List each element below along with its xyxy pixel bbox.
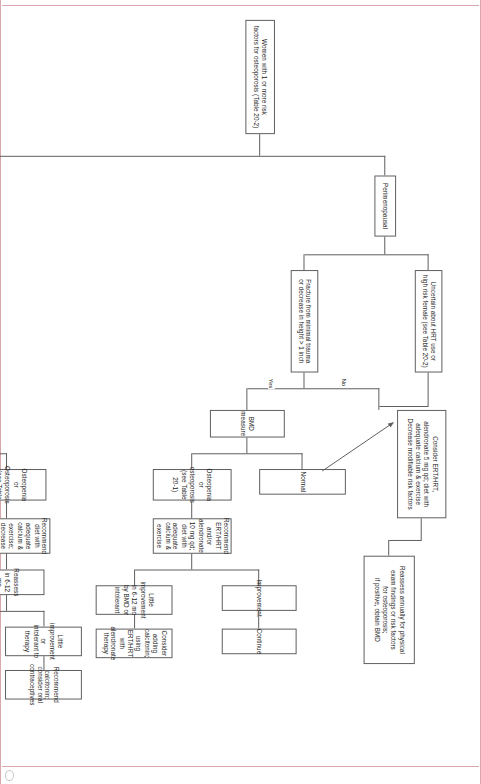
edge-peri-no-to-consider: [378, 388, 379, 410]
edge-pre-outcome-split: [0, 611, 44, 612]
flowchart-diagram: Women with 1 or more risk factors for os…: [5, 12, 468, 761]
node-peri-osteopenia: Osteopenia or osteoporosis (see Table 20…: [153, 469, 232, 501]
node-peri-uncertain-hrt: Uncertain about HRT use or high risk fem…: [415, 270, 443, 372]
edge-to-uncertain-hrt: [428, 254, 429, 270]
edge-pre-reassess-out: [6, 595, 7, 611]
page-corner-mark: [5, 770, 14, 781]
node-peri-recommend-ert: Recommend ERT/HRT and/or alendronate 10 …: [153, 518, 232, 553]
page-rule-bottom: [2, 766, 479, 767]
edge-peri-bmd-out: [246, 438, 247, 454]
node-pre-little-improvement: Little improvement or intolerant to ther…: [5, 627, 82, 657]
edge-peri-recommend-out: [191, 554, 192, 570]
page-rule-top: [2, 5, 479, 6]
node-peri-reassess-annually: Reassess annually for physical exam find…: [364, 556, 415, 664]
edge-trunk-vertical: [0, 156, 385, 157]
node-peri-consider-ert: Consider ERT/HRT, alendronate 5 mg qd; d…: [397, 410, 446, 518]
edge-consider-to-reassess: [421, 518, 422, 540]
edge-root-trunk: [259, 134, 260, 156]
edge-peri-bmd-split: [192, 453, 302, 454]
edge-pre-osteopenia-to-recommend: [6, 501, 7, 519]
edge-peri-osteopenia-to-recommend: [191, 501, 192, 519]
edge-peri-improvement-to-continue: [258, 611, 259, 629]
node-peri-improvement: Improvement: [222, 585, 297, 611]
edge-reassess-entry-h: [388, 540, 389, 556]
node-peri-consider-calcitonin: Consider adding calcitonin; using ERT/HR…: [96, 629, 173, 659]
edge-label-peri-yes: Yes: [268, 377, 275, 389]
node-perimenopausal: Perimenopausal: [374, 176, 396, 237]
edge-perimenopausal-out: [384, 237, 385, 255]
node-root: Women with 1 or more risk factors for os…: [245, 20, 275, 134]
edge-trunk-perimenopausal: [384, 156, 385, 176]
edge-to-peri-fracture: [304, 254, 305, 270]
node-pre-osteopenia: Osteopenia or Osteoporosis (see Table 20…: [0, 469, 46, 501]
edge-to-peri-normal: [302, 453, 303, 469]
node-peri-normal: Normal: [259, 469, 346, 495]
edge-peri-yes-to-bmd: [246, 388, 247, 410]
node-pre-recommend-diet-alen: Recommend diet with adequate calcium & e…: [0, 518, 50, 553]
edge-uncertain-to-consider: [428, 373, 429, 406]
node-peri-fracture: Fracture from minimal trauma or decrease…: [291, 270, 319, 372]
node-peri-bmd-measure: BMD measure: [210, 410, 285, 438]
edge-peri-fracture-out: [304, 373, 305, 389]
node-peri-little-improvement: Little improvement in 6-12 mo by BMD or …: [96, 585, 173, 615]
node-peri-continue: Continue: [222, 629, 297, 655]
edge-label-peri-no: No: [341, 377, 348, 387]
node-pre-recommend-calcitonin: Recommend calcitonin; consider oral cont…: [5, 670, 82, 700]
edge-reassess-entry-vertical: [389, 540, 422, 541]
node-pre-reassess: Reassess in 6-12 mo: [0, 570, 44, 596]
edge-perimenopausal-split: [304, 254, 428, 255]
edge-consider-entry-vertical: [379, 406, 428, 407]
edge-pre-recommend-to-reassess: [6, 554, 7, 570]
edge-peri-outcome-split: [135, 570, 259, 571]
